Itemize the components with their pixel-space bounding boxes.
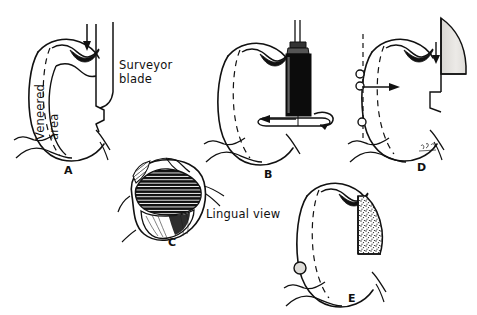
veneered-area-label: Veneered area bbox=[33, 84, 62, 140]
shaded-blade bbox=[430, 18, 466, 112]
lingual-view-line-1: Lingual view bbox=[206, 207, 280, 221]
veneered-area-line-2: area bbox=[47, 84, 61, 140]
figure-linework bbox=[0, 0, 477, 315]
artist-signature bbox=[419, 144, 436, 151]
surveyor-blade-line-1: Surveyor bbox=[119, 58, 172, 72]
surveyor-blade-line-2: blade bbox=[119, 72, 172, 86]
panel-label-c: C bbox=[168, 236, 176, 249]
panel-c-group bbox=[118, 158, 224, 242]
panel-a-group bbox=[14, 22, 113, 161]
panel-label-b: B bbox=[264, 168, 273, 181]
panel-e-group bbox=[284, 183, 386, 307]
panel-b-group bbox=[204, 20, 333, 165]
veneered-area-line-1: Veneered bbox=[33, 84, 47, 140]
dental-figure: Veneered area Surveyor blade Lingual vie… bbox=[0, 0, 477, 315]
rotary-instrument bbox=[258, 20, 333, 130]
panel-label-d: D bbox=[417, 161, 426, 174]
surveyor-blade-label: Surveyor blade bbox=[119, 58, 172, 87]
panel-label-a: A bbox=[64, 164, 73, 177]
lingual-view-label: Lingual view bbox=[206, 207, 280, 221]
panel-d-arrow bbox=[362, 83, 400, 91]
panel-d-group bbox=[348, 18, 466, 162]
panel-label-e: E bbox=[348, 292, 356, 305]
